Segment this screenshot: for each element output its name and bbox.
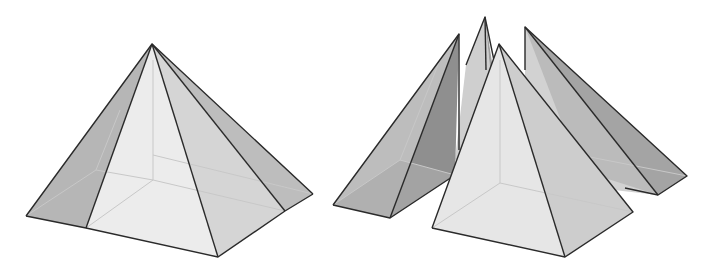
left-wedge (333, 34, 459, 218)
exploded-pyramid (333, 17, 687, 257)
assembled-pyramid (26, 44, 313, 257)
figure-canvas (0, 0, 710, 271)
pyramid-dissection-diagram (0, 0, 710, 271)
